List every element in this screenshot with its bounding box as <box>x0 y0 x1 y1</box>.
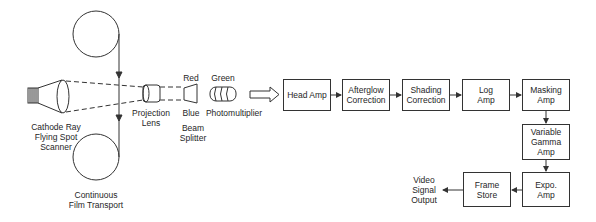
crt-label: Cathode Ray Flying Spot Scanner <box>31 122 81 152</box>
signal-hollow-arrow-icon <box>250 87 279 102</box>
variable-gamma-amp-block: Variable Gamma Amp <box>522 124 570 160</box>
photomultiplier-icon <box>210 87 236 101</box>
projection-lens-icon <box>143 85 160 102</box>
projection-lens-label: Projection Lens <box>132 108 170 128</box>
beam-splitter-icon <box>184 84 197 103</box>
blue-label: Blue <box>182 108 199 118</box>
expo-amp-block: Expo. Amp <box>522 172 570 207</box>
green-label: Green <box>211 73 235 83</box>
video-signal-output-label: Video Signal Output <box>411 175 437 205</box>
afterglow-correction-block: Afterglow Correction <box>342 79 390 111</box>
beam-splitter-label: Beam Splitter <box>180 123 206 143</box>
log-amp-block: Log Amp <box>462 79 510 111</box>
top-film-reel <box>73 11 119 57</box>
masking-amp-block: Masking Amp <box>522 79 570 111</box>
photomultiplier-label: Photomultiplier <box>206 108 262 118</box>
film-direction-arrow-icon <box>116 72 122 78</box>
film-transport-label: Continuous Film Transport <box>69 190 123 210</box>
red-label: Red <box>183 73 199 83</box>
crt-icon <box>28 80 69 113</box>
head-amp-block: Head Amp <box>283 79 331 111</box>
film-direction-arrow-icon <box>116 115 122 121</box>
shading-correction-block: Shading Correction <box>402 79 450 111</box>
frame-store-block: Frame Store <box>463 172 511 207</box>
